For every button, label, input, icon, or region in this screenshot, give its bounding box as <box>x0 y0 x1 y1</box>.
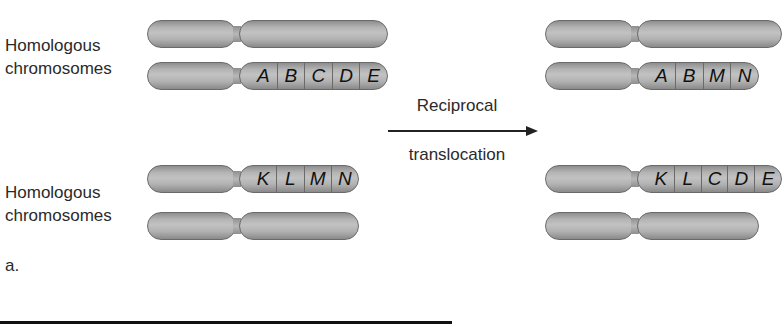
long-arm: K L C D E <box>637 165 782 193</box>
short-arm <box>545 212 634 240</box>
long-arm <box>637 20 782 48</box>
long-arm: K L M N <box>239 165 359 193</box>
homologous-label-top: Homologous chromosomes <box>5 34 112 80</box>
short-arm <box>147 62 236 90</box>
label-line1: Homologous <box>5 34 112 57</box>
arrow-label-bottom: translocation <box>377 145 537 165</box>
gene-band: M <box>304 166 331 192</box>
homologous-label-bottom: Homologous chromosomes <box>5 181 112 227</box>
long-arm <box>637 212 759 240</box>
gene-band: E <box>359 63 387 89</box>
arrow-label-top: Reciprocal <box>377 96 537 116</box>
gene-band: K <box>250 166 276 192</box>
short-arm <box>545 20 634 48</box>
long-arm <box>239 212 359 240</box>
long-arm: A B M N <box>637 62 759 90</box>
long-arm: A B C D E <box>239 62 388 90</box>
arrow-line <box>388 130 528 132</box>
arrow-head-icon <box>526 126 538 136</box>
long-arm <box>239 20 388 48</box>
gene-band: C <box>701 166 728 192</box>
short-arm <box>545 62 634 90</box>
gene-band: B <box>675 63 703 89</box>
gene-band: A <box>250 63 277 89</box>
gene-band: D <box>332 63 360 89</box>
gene-band: L <box>674 166 701 192</box>
gene-band: L <box>276 166 303 192</box>
panel-label: a. <box>5 254 19 277</box>
short-arm <box>147 20 236 48</box>
label-line2: chromosomes <box>5 204 112 227</box>
gene-band: A <box>648 63 675 89</box>
short-arm <box>545 165 634 193</box>
gene-band: B <box>277 63 305 89</box>
gene-band: E <box>754 166 781 192</box>
short-arm <box>147 165 236 193</box>
gene-band: K <box>648 166 674 192</box>
gene-band: N <box>331 166 358 192</box>
label-line1: Homologous <box>5 181 112 204</box>
gene-band: C <box>304 63 332 89</box>
short-arm <box>147 212 236 240</box>
gene-band: M <box>703 63 731 89</box>
gene-band: D <box>727 166 754 192</box>
gene-band: N <box>730 63 758 89</box>
label-line2: chromosomes <box>5 57 112 80</box>
